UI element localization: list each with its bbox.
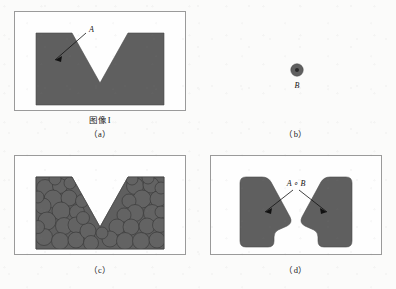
annotation-ab-label: A ∘ B — [286, 179, 306, 188]
panel-d: A ∘ B — [210, 155, 382, 255]
panel-d-caption: （d） — [210, 263, 382, 275]
panel-c-graphic — [14, 155, 186, 255]
panel-b: B — [210, 11, 382, 111]
panel-c-caption: （c） — [14, 263, 186, 275]
structuring-element-b-origin-dot — [295, 68, 299, 72]
set-a-shape — [36, 33, 164, 105]
panel-a-caption: （a） — [14, 127, 186, 139]
panel-a: A — [14, 11, 186, 111]
annotation-a-label: A — [88, 25, 94, 34]
panel-b-graphic: B — [210, 11, 382, 111]
panel-c — [14, 155, 186, 255]
panel-a-graphic: A — [14, 11, 186, 111]
figure-root: A 图像I （a） B （b） — [0, 0, 396, 289]
panel-b-caption: （b） — [210, 127, 382, 139]
annotation-b-label: B — [295, 81, 300, 90]
panel-d-graphic: A ∘ B — [210, 155, 382, 255]
panel-a-inner-label: 图像I — [14, 113, 186, 125]
rolling-disks-group — [32, 172, 168, 251]
